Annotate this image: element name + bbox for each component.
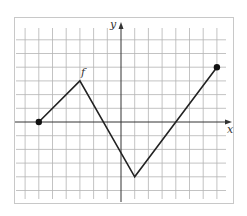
endpoint-dot (214, 64, 220, 70)
function-graph: x y f (0, 0, 247, 216)
y-axis-label: y (109, 18, 117, 31)
x-axis-label: x (227, 123, 234, 136)
endpoint-dot (36, 119, 42, 125)
graph-frame (15, 18, 234, 204)
